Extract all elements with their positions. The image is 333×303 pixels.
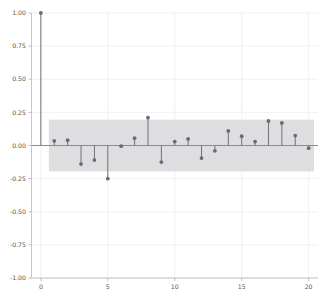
x-tick-label-3: 15 bbox=[238, 283, 246, 290]
stem-marker-lag-6 bbox=[119, 144, 123, 148]
stem-marker-lag-10 bbox=[173, 140, 177, 144]
y-tick-label-8: 1.00 bbox=[12, 9, 26, 16]
stem-marker-lag-8 bbox=[146, 116, 150, 120]
y-tick-label-7: 0.75 bbox=[12, 42, 26, 49]
stem-marker-lag-16 bbox=[253, 140, 257, 144]
stem-marker-lag-11 bbox=[186, 137, 190, 141]
stem-marker-lag-14 bbox=[226, 129, 230, 133]
stem-marker-lag-7 bbox=[133, 136, 137, 140]
acf-stem-lag-6 bbox=[119, 144, 123, 148]
stem-marker-lag-20 bbox=[307, 146, 311, 150]
stem-marker-lag-0 bbox=[39, 11, 43, 15]
x-tick-label-2: 10 bbox=[171, 283, 179, 290]
stem-marker-lag-2 bbox=[66, 138, 70, 142]
stem-marker-lag-15 bbox=[240, 134, 244, 138]
stem-marker-lag-17 bbox=[267, 119, 271, 123]
stem-marker-lag-12 bbox=[200, 156, 204, 160]
y-tick-label-2: -0.50 bbox=[10, 208, 26, 215]
stem-marker-lag-5 bbox=[106, 177, 110, 181]
stem-marker-lag-4 bbox=[93, 158, 97, 162]
x-tick-label-4: 20 bbox=[305, 283, 313, 290]
stem-marker-lag-13 bbox=[213, 149, 217, 153]
stem-marker-lag-9 bbox=[159, 160, 163, 164]
x-tick-label-1: 5 bbox=[106, 283, 110, 290]
stem-marker-lag-1 bbox=[52, 139, 56, 143]
stem-marker-lag-3 bbox=[79, 162, 83, 166]
y-tick-label-6: 0.50 bbox=[12, 75, 26, 82]
y-tick-label-3: -0.25 bbox=[10, 175, 26, 182]
stem-marker-lag-19 bbox=[293, 134, 297, 138]
y-tick-label-5: 0.25 bbox=[12, 109, 26, 116]
y-tick-label-1: -0.75 bbox=[10, 241, 26, 248]
acf-plot-figure: -1.00-0.75-0.50-0.250.000.250.500.751.00… bbox=[0, 0, 333, 303]
y-tick-label-0: -1.00 bbox=[10, 274, 26, 281]
x-tick-label-0: 0 bbox=[39, 283, 43, 290]
acf-plot-canvas: -1.00-0.75-0.50-0.250.000.250.500.751.00… bbox=[0, 0, 333, 303]
stem-marker-lag-18 bbox=[280, 121, 284, 125]
y-tick-label-4: 0.00 bbox=[12, 142, 26, 149]
